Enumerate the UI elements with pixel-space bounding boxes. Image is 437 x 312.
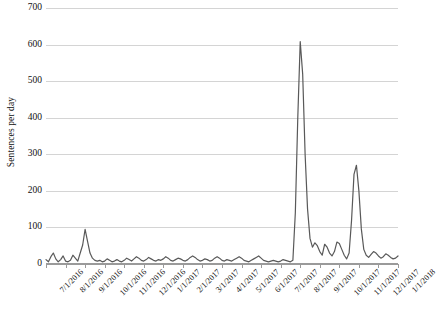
- y-axis-tick-label: 400: [14, 113, 42, 123]
- y-axis-tick-label: 600: [14, 40, 42, 50]
- y-axis-tick-label: 300: [14, 149, 42, 159]
- series-path: [46, 42, 398, 262]
- series-line: [46, 8, 398, 264]
- x-axis-tick-labels: 7/1/20168/1/20169/1/201610/1/201611/1/20…: [0, 268, 416, 312]
- y-axis-tick-label: 700: [14, 3, 42, 13]
- y-axis-tick-label: 200: [14, 186, 42, 196]
- y-axis-tick-label: 100: [14, 222, 42, 232]
- plot-area: [46, 8, 398, 264]
- y-axis-tick-labels: 0100200300400500600700: [12, 0, 42, 300]
- y-axis-tick-label: 500: [14, 76, 42, 86]
